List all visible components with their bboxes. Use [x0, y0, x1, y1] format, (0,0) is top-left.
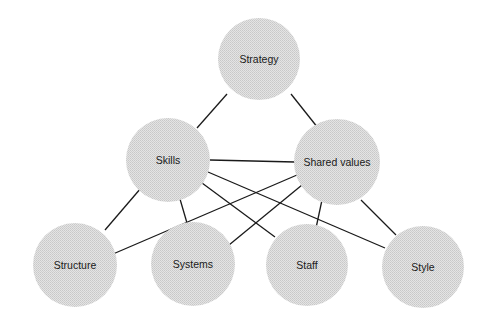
node-skills: Skills	[126, 118, 210, 202]
node-label: Structure	[54, 259, 97, 271]
node-structure: Structure	[33, 223, 117, 307]
node-systems: Systems	[151, 222, 235, 306]
edge-shared-values-to-staff	[316, 200, 322, 228]
node-label: Systems	[173, 258, 213, 270]
node-label: Strategy	[239, 53, 279, 65]
node-label: Shared values	[303, 156, 370, 168]
node-style: Style	[382, 226, 464, 308]
edge-skills-to-systems	[180, 199, 187, 223]
edge-strategy-to-shared-values	[291, 94, 318, 128]
edge-skills-to-structure	[105, 188, 141, 230]
edge-shared-values-to-style	[361, 200, 396, 235]
node-label: Style	[411, 261, 435, 273]
node-strategy: Strategy	[218, 18, 300, 100]
edge-skills-to-shared-values	[210, 160, 295, 162]
node-staff: Staff	[266, 224, 348, 306]
seven-s-diagram: StrategySkillsShared valuesStructureSyst…	[0, 0, 487, 327]
node-label: Skills	[156, 154, 181, 166]
edge-strategy-to-skills	[197, 94, 227, 128]
node-label: Staff	[296, 259, 317, 271]
node-shared-values: Shared values	[294, 119, 380, 205]
nodes-group: StrategySkillsShared valuesStructureSyst…	[33, 18, 464, 308]
